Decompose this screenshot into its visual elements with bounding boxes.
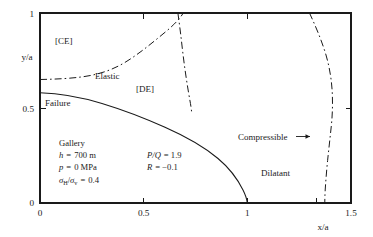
plot-frame bbox=[40, 13, 351, 203]
y-axis-title: y/a bbox=[21, 52, 32, 62]
param-sigma-v-sub: v bbox=[74, 179, 78, 186]
curve-elastic-left bbox=[40, 13, 183, 80]
x-tick-label-0-5: 0.5 bbox=[138, 208, 150, 218]
annotation-pq-value: = 1.9 bbox=[164, 150, 182, 160]
label-de: [DE] bbox=[136, 84, 154, 94]
x-axis-ticks bbox=[144, 13, 317, 203]
param-pressure-var: p bbox=[58, 162, 64, 172]
param-stress-rel: = bbox=[80, 175, 85, 185]
y-tick-label-1: 1 bbox=[29, 9, 34, 19]
curve-compressible-dilatant bbox=[310, 13, 333, 203]
annotation-pq: P/Q= 1.9 bbox=[146, 150, 182, 160]
label-elastic: Elastic bbox=[95, 71, 120, 81]
annotation-r-var: R bbox=[146, 162, 153, 172]
param-pressure-rel: = bbox=[66, 162, 71, 172]
x-axis-title: x/a bbox=[317, 222, 328, 232]
gallery-parameter-block: Gallery h=700 m p=0 MPa σH/σv=0.4 bbox=[58, 138, 100, 186]
param-depth-value: 700 m bbox=[74, 150, 96, 160]
curve-elastic-right bbox=[178, 13, 192, 114]
param-stress-value: 0.4 bbox=[88, 175, 99, 185]
y-tick-label-0: 0 bbox=[29, 198, 34, 208]
param-depth-var: h bbox=[59, 150, 63, 160]
label-dilatant: Dilatant bbox=[261, 168, 290, 178]
annotation-r-value: = −0.1 bbox=[155, 162, 178, 172]
annotation-r: R= −0.1 bbox=[146, 162, 178, 172]
plot-svg: 0 0.5 1 1.5 0 0.5 1 y/a x/a [CE] [DE] El… bbox=[0, 0, 373, 237]
param-depth-rel: = bbox=[66, 150, 71, 160]
param-pressure: p=0 MPa bbox=[58, 162, 97, 172]
param-depth: h=700 m bbox=[59, 150, 96, 160]
label-compressible: Compressible bbox=[238, 132, 288, 142]
annotation-pq-var: P/Q bbox=[146, 150, 162, 160]
gallery-title: Gallery bbox=[59, 138, 85, 148]
param-pressure-value: 0 MPa bbox=[74, 162, 97, 172]
figure-container: 0 0.5 1 1.5 0 0.5 1 y/a x/a [CE] [DE] El… bbox=[0, 0, 373, 237]
label-ce: [CE] bbox=[55, 36, 73, 46]
param-stress-ratio: σH/σv=0.4 bbox=[59, 175, 100, 186]
pq-annotation-block: P/Q= 1.9 R= −0.1 bbox=[146, 150, 182, 172]
label-failure: Failure bbox=[45, 98, 71, 108]
compressible-arrow-icon bbox=[296, 134, 310, 139]
x-tick-label-0: 0 bbox=[38, 208, 43, 218]
x-tick-label-1: 1 bbox=[245, 208, 250, 218]
x-tick-label-1-5: 1.5 bbox=[345, 208, 357, 218]
y-tick-label-0-5: 0.5 bbox=[23, 104, 35, 114]
